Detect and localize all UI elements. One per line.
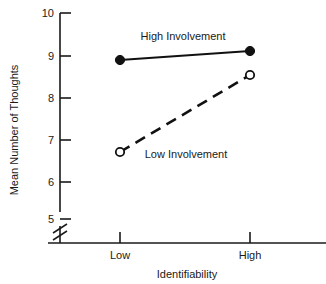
- series-label-high-involvement: High Involvement: [141, 30, 226, 42]
- line-chart: 10 9 8 7 6 5 Mean Number of Thoughts Low…: [0, 0, 326, 284]
- data-point-high-high: [245, 46, 254, 55]
- y-tick-label-5: 5: [48, 213, 54, 225]
- y-tick-label-10: 10: [42, 7, 54, 19]
- data-point-low-low: [116, 148, 124, 156]
- y-tick-label-6: 6: [48, 176, 54, 188]
- y-axis-title: Mean Number of Thoughts: [8, 64, 20, 195]
- x-tick-label-low: Low: [110, 249, 130, 261]
- x-axis-title: Identifiability: [157, 268, 218, 280]
- x-tick-label-high: High: [239, 249, 262, 261]
- series-label-low-involvement: Low Involvement: [145, 148, 228, 160]
- chart-canvas: 10 9 8 7 6 5 Mean Number of Thoughts Low…: [0, 0, 326, 284]
- y-tick-label-8: 8: [48, 92, 54, 104]
- data-point-low-high: [246, 71, 254, 79]
- y-tick-label-9: 9: [48, 50, 54, 62]
- data-point-high-low: [115, 55, 124, 64]
- y-tick-label-7: 7: [48, 134, 54, 146]
